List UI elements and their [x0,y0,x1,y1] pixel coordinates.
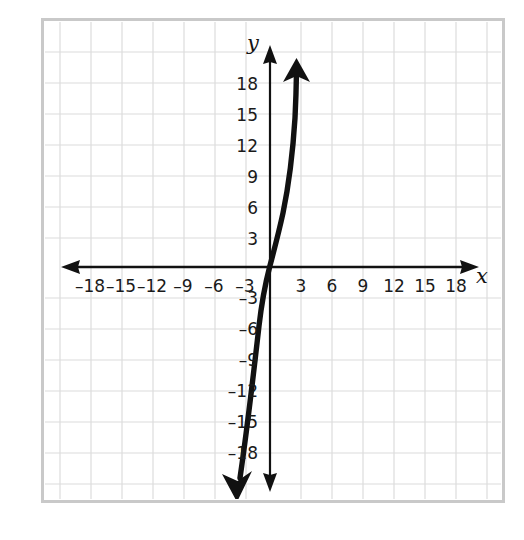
x-tick-label-12: 12 [378,278,410,295]
y-axis-top-arrowhead [263,45,277,64]
x-axis-name-label: x [476,266,488,287]
x-tick-label-15: 15 [409,278,441,295]
y-tick-label-3: 3 [210,231,258,248]
x-tick-label-9: 9 [350,278,376,295]
y-tick-label-9: 9 [210,169,258,186]
coordinate-plane [0,0,524,540]
y-tick-label--12: –12 [202,383,258,400]
y-tick-label--18: –18 [202,445,258,462]
y-tick-label-6: 6 [210,200,258,217]
y-axis-bottom-arrowhead [263,473,277,492]
y-tick-label-15: 15 [210,107,258,124]
y-tick-label-18: 18 [210,76,258,93]
x-tick-label-3: 3 [288,278,314,295]
figure-canvas: –18 –15 –12 –9 –6 –3 3 6 9 12 15 18 18 1… [0,0,524,540]
y-tick-label--9: –9 [206,352,258,369]
x-axis-left-arrowhead [61,260,80,274]
y-tick-label--3: –3 [206,290,258,307]
x-tick-label-18: 18 [440,278,472,295]
y-tick-label--6: –6 [206,321,258,338]
curve-bottom-arrowhead [222,471,252,502]
y-axis-name-label: y [247,33,259,54]
y-tick-label-12: 12 [210,138,258,155]
x-tick-label-6: 6 [319,278,345,295]
y-tick-label--15: –15 [202,414,258,431]
